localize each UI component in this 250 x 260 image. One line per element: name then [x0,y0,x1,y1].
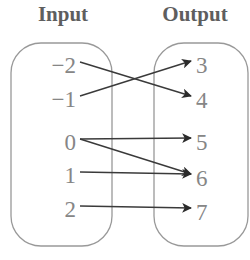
input-element-2: 0 [24,131,76,154]
output-element-3: 6 [196,167,218,190]
input-element-4: 2 [24,198,76,221]
input-element-3: 1 [24,164,76,187]
arrow-4 [80,172,191,174]
output-element-1: 4 [196,89,218,112]
function-mapping-diagram: Input Output −2−1012 34567 [0,0,250,260]
output-element-4: 7 [196,201,218,224]
output-element-0: 3 [196,54,218,77]
arrow-2 [80,138,191,139]
arrow-5 [80,206,191,208]
input-element-0: −2 [24,54,76,77]
output-element-2: 5 [196,131,218,154]
arrow-3 [80,139,191,174]
mapping-arrows [80,61,191,208]
input-element-1: −1 [24,88,76,111]
